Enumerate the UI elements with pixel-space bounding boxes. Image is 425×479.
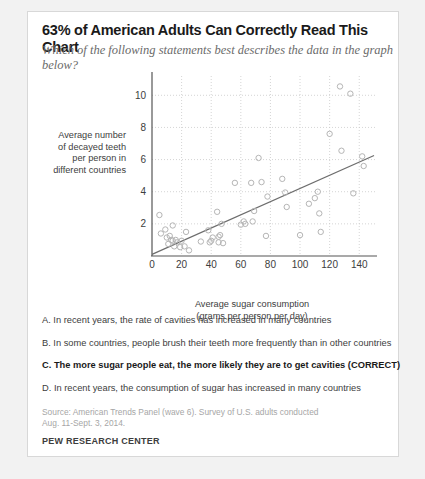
answer-option-d[interactable]: D. In recent years, the consumption of s… (42, 382, 392, 394)
y-tick-label: 10 (135, 90, 147, 101)
scatter-point (306, 201, 311, 206)
answer-option-b[interactable]: B. In some countries, people brush their… (42, 337, 392, 349)
scatter-plot-figure: Average number of decayed teeth per pers… (28, 62, 400, 310)
plot-area: 246810020406080100120140 (125, 70, 379, 278)
scatter-chart-svg: 246810020406080100120140 (125, 70, 379, 278)
scatter-point (198, 239, 203, 244)
y-axis-label-line-1: Average number (34, 130, 126, 142)
scatter-point (158, 231, 163, 236)
y-tick-label: 8 (140, 122, 146, 133)
x-tick-label: 0 (149, 259, 155, 270)
scatter-point (186, 248, 191, 253)
scatter-point (163, 227, 168, 232)
x-tick-label: 20 (176, 259, 188, 270)
x-tick-label: 100 (292, 259, 309, 270)
scatter-point (214, 209, 219, 214)
scatter-point (284, 204, 289, 209)
y-axis-label: Average number of decayed teeth per pers… (34, 130, 126, 176)
scatter-point (339, 148, 344, 153)
scatter-point (361, 163, 366, 168)
y-axis-label-line-2: of decayed teeth (34, 142, 126, 154)
scatter-point (232, 180, 237, 185)
y-tick-label: 4 (140, 186, 146, 197)
y-tick-label: 6 (140, 154, 146, 165)
y-tick-label: 2 (140, 218, 146, 229)
scatter-point (280, 176, 285, 181)
scatter-point (157, 212, 162, 217)
scatter-point (183, 229, 188, 234)
scatter-point (216, 234, 221, 239)
brand-label: PEW RESEARCH CENTER (42, 436, 160, 446)
x-tick-label: 120 (321, 259, 338, 270)
scatter-point (265, 194, 270, 199)
trend-line (152, 156, 374, 255)
scatter-point (210, 235, 215, 240)
scatter-point (263, 233, 268, 238)
scatter-point (259, 179, 264, 184)
source-note-line-1: Source: American Trends Panel (wave 6). … (42, 407, 382, 418)
scatter-point (248, 180, 253, 185)
x-tick-label: 40 (206, 259, 218, 270)
scatter-point (359, 154, 364, 159)
chart-card: 63% of American Adults Can Correctly Rea… (27, 11, 399, 457)
x-axis-label-line-1: Average sugar consumption (125, 298, 379, 310)
source-note-line-2: Aug. 11-Sept. 3, 2014. (42, 418, 382, 429)
scatter-point (318, 229, 323, 234)
answer-option-a[interactable]: A. In recent years, the rate of cavities… (42, 314, 392, 326)
scatter-point (312, 195, 317, 200)
x-tick-label: 60 (235, 259, 247, 270)
source-note: Source: American Trends Panel (wave 6). … (42, 407, 382, 429)
scatter-point (283, 190, 288, 195)
y-axis-label-line-4: different countries (34, 165, 126, 177)
x-tick-label: 80 (265, 259, 277, 270)
scatter-point (256, 155, 261, 160)
scatter-point (217, 232, 222, 237)
scatter-point (317, 211, 322, 216)
x-tick-label: 140 (351, 259, 368, 270)
answer-options-list: A. In recent years, the rate of cavities… (42, 314, 392, 404)
answer-option-c[interactable]: C. The more sugar people eat, the more l… (42, 359, 392, 371)
scatter-point (250, 219, 255, 224)
scatter-point (170, 223, 175, 228)
y-axis-label-line-3: per person in (34, 153, 126, 165)
scatter-point (337, 84, 342, 89)
